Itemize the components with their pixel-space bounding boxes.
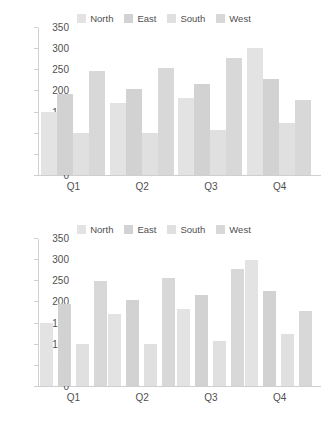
plot-area-bottom: 050100150200250300350: [38, 239, 313, 387]
bar-west-q2[interactable]: [162, 278, 175, 386]
y-axis-tick: [34, 344, 38, 345]
y-axis-tick: [34, 280, 38, 281]
bar-west-q3[interactable]: [231, 269, 244, 386]
bar-north-q2[interactable]: [108, 314, 121, 386]
legend-label: West: [229, 225, 250, 235]
legend-entry-east[interactable]: East: [124, 225, 156, 235]
legend-top: NorthEastSouthWest: [0, 14, 328, 24]
legend-label: West: [229, 14, 250, 24]
y-axis-tick: [34, 133, 38, 134]
bar-group-q2: [108, 28, 177, 175]
bar-group-q3: [176, 239, 245, 386]
legend-entry-west[interactable]: West: [216, 14, 250, 24]
legend-label: South: [180, 225, 205, 235]
bar-group-q1: [39, 28, 108, 175]
bar-east-q4[interactable]: [263, 79, 279, 175]
bar-group-q2: [108, 239, 177, 386]
legend-label: North: [90, 14, 113, 24]
bar-east-q4[interactable]: [263, 291, 276, 386]
bar-north-q3[interactable]: [178, 98, 194, 175]
y-axis-tick: [34, 301, 38, 302]
bar-south-q4[interactable]: [281, 334, 294, 386]
y-axis-tick: [34, 154, 38, 155]
bar-south-q3[interactable]: [213, 341, 226, 386]
bar-south-q2[interactable]: [144, 344, 157, 386]
legend-label: East: [137, 225, 156, 235]
bar-south-q1[interactable]: [73, 133, 89, 175]
x-axis-label-q1: Q1: [39, 182, 108, 192]
x-axis-line: [38, 386, 321, 387]
bar-west-q4[interactable]: [299, 311, 312, 386]
legend-bottom: NorthEastSouthWest: [0, 225, 328, 235]
bar-group-q3: [176, 28, 245, 175]
y-axis-tick: [34, 365, 38, 366]
legend-swatch-icon: [167, 225, 176, 234]
x-axis-labels-bottom: Q1Q2Q3Q4: [39, 393, 314, 403]
legend-swatch-icon: [77, 14, 86, 23]
legend-entry-north[interactable]: North: [77, 14, 113, 24]
bar-north-q1[interactable]: [40, 323, 53, 386]
y-axis-tick: [34, 323, 38, 324]
bar-east-q1[interactable]: [58, 304, 71, 386]
bar-east-q3[interactable]: [195, 295, 208, 386]
plot-area-top: 050100150200250300350: [38, 28, 313, 176]
bar-west-q3[interactable]: [226, 58, 242, 175]
y-axis-tick: [34, 27, 38, 28]
legend-label: South: [180, 14, 205, 24]
bar-group-q4: [245, 28, 314, 175]
bar-north-q2[interactable]: [110, 103, 126, 175]
y-axis-tick: [34, 386, 38, 387]
bar-north-q1[interactable]: [41, 112, 57, 175]
bar-east-q2[interactable]: [126, 89, 142, 175]
bar-north-q4[interactable]: [245, 260, 258, 386]
legend-swatch-icon: [124, 14, 133, 23]
y-axis-tick: [34, 259, 38, 260]
chart-page: NorthEastSouthWest 050100150200250300350…: [0, 0, 328, 422]
bar-east-q3[interactable]: [194, 84, 210, 175]
x-axis-labels-top: Q1Q2Q3Q4: [39, 182, 314, 192]
legend-swatch-icon: [216, 225, 225, 234]
x-axis-label-q2: Q2: [108, 182, 177, 192]
bar-south-q3[interactable]: [210, 130, 226, 175]
y-axis-tick: [34, 112, 38, 113]
x-axis-label-q4: Q4: [245, 182, 314, 192]
bar-west-q2[interactable]: [158, 68, 174, 175]
legend-swatch-icon: [167, 14, 176, 23]
y-axis-tick: [34, 175, 38, 176]
bar-chart-top: NorthEastSouthWest 050100150200250300350…: [0, 0, 328, 211]
bar-group-q4: [245, 239, 314, 386]
legend-entry-west[interactable]: West: [216, 225, 250, 235]
legend-swatch-icon: [124, 225, 133, 234]
legend-swatch-icon: [77, 225, 86, 234]
bars-bottom: [39, 239, 313, 386]
x-axis-label-q3: Q3: [177, 182, 246, 192]
bar-group-q1: [39, 239, 108, 386]
x-axis-label-q4: Q4: [245, 393, 314, 403]
bar-west-q4[interactable]: [295, 100, 311, 175]
y-axis-tick: [34, 238, 38, 239]
bar-chart-bottom: NorthEastSouthWest 050100150200250300350…: [0, 211, 328, 422]
legend-entry-east[interactable]: East: [124, 14, 156, 24]
bar-south-q1[interactable]: [76, 344, 89, 386]
legend-entry-south[interactable]: South: [167, 14, 205, 24]
legend-entry-north[interactable]: North: [77, 225, 113, 235]
bar-south-q2[interactable]: [142, 133, 158, 175]
bar-east-q1[interactable]: [57, 94, 73, 175]
bar-north-q3[interactable]: [177, 309, 190, 386]
bar-west-q1[interactable]: [89, 71, 105, 175]
y-axis-tick: [34, 90, 38, 91]
bar-north-q4[interactable]: [247, 48, 263, 175]
legend-label: North: [90, 225, 113, 235]
y-axis-tick: [34, 69, 38, 70]
legend-label: East: [137, 14, 156, 24]
x-axis-label-q1: Q1: [39, 393, 108, 403]
y-axis-tick: [34, 48, 38, 49]
bars-top: [39, 28, 313, 175]
bar-east-q2[interactable]: [126, 300, 139, 386]
bar-south-q4[interactable]: [279, 123, 295, 175]
legend-swatch-icon: [216, 14, 225, 23]
x-axis-label-q3: Q3: [177, 393, 246, 403]
x-axis-line: [38, 175, 321, 176]
legend-entry-south[interactable]: South: [167, 225, 205, 235]
bar-west-q1[interactable]: [94, 281, 107, 386]
